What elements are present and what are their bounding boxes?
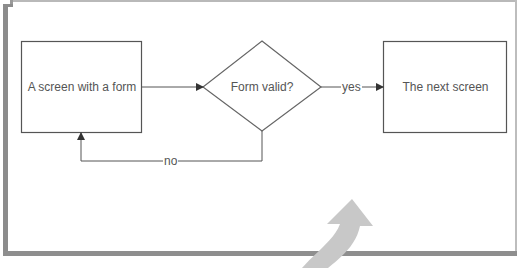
node-form-valid-label: Form valid? [212, 78, 312, 96]
flowchart-graphics [0, 0, 519, 268]
node-next-screen-label: The next screen [384, 42, 507, 133]
curved-up-arrow-icon [302, 199, 373, 268]
edge-yes-label: yes [341, 80, 362, 94]
edge-no-label: no [163, 154, 178, 168]
node-screen-with-form-label: A screen with a form [22, 42, 142, 133]
diagram-canvas: A screen with a form Form valid? The nex… [0, 0, 519, 268]
